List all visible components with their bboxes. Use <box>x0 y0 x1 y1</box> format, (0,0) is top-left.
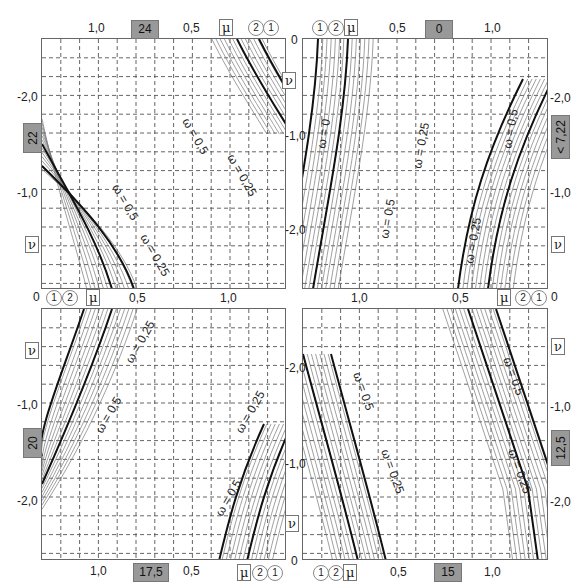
value-tag: 20 <box>23 428 42 458</box>
x-tick-label: 0,5 <box>389 22 406 34</box>
nu-axis-label: ν <box>25 342 39 359</box>
y-tick-label: -2,0 <box>17 495 38 507</box>
y-tick-label: -2,0 <box>285 224 306 236</box>
nu-axis-label: ν <box>25 236 39 253</box>
y-tick-label: -1,0 <box>550 401 571 413</box>
panel-plot-area: ω = 0,5ω = 0,5ω = 0,25ω = 0,25 <box>303 309 547 559</box>
panel-plot-area: ω = 0,25ω = 0,5ω = 0,25ω = 0,5 <box>42 309 285 559</box>
omega-label: ω = 0,25 <box>410 121 432 169</box>
value-tag: 15 <box>434 563 462 582</box>
y-tick-label: -1,0 <box>285 458 306 470</box>
x-tick-label: 1,0 <box>220 292 237 304</box>
value-tag: 17,5 <box>133 563 169 582</box>
panel-bottom-right: ω = 0,5ω = 0,5ω = 0,25ω = 0,25 <box>302 308 548 560</box>
x-tick-label: 0,5 <box>452 292 469 304</box>
panel-top-left: ω = 0,5ω = 0,25ω = 0,5ω = 0,25 <box>41 38 286 289</box>
curve-marker: 1 <box>263 20 279 36</box>
curve-marker: 2 <box>62 290 78 306</box>
omega-label: ω = 0,5 <box>109 182 141 224</box>
x-tick-label: 0,5 <box>183 565 200 577</box>
value-tag: 12,5 <box>551 430 570 466</box>
curve-marker: 2 <box>515 290 531 306</box>
curve-marker: 2 <box>328 565 344 581</box>
nu-axis-label: ν <box>551 338 565 355</box>
y-tick-label: -2,0 <box>550 92 571 104</box>
x-tick-label: 0,5 <box>183 22 200 34</box>
curve-marker: 1 <box>531 290 547 306</box>
y-tick-label: -2,0 <box>285 362 306 374</box>
mu-axis-label: μ <box>344 19 358 36</box>
panel-plot-area: ω = 0,5ω = 0,25ω = 0,5ω = 0,25 <box>42 39 285 288</box>
x-tick-label: 0,5 <box>129 292 146 304</box>
omega-label: ω = 0,5 <box>179 116 211 158</box>
mu-axis-label: μ <box>219 19 233 36</box>
nu-axis-label: ν <box>285 515 299 532</box>
y-tick-label: -2,0 <box>550 496 571 508</box>
origin-label: 0 <box>33 291 40 303</box>
x-tick-label: 1,0 <box>90 565 107 577</box>
value-tag: 0 <box>425 20 453 39</box>
omega-label: ω = 0,25 <box>378 447 407 496</box>
y-tick-label: -1,0 <box>17 187 38 199</box>
mu-axis-label: μ <box>343 564 357 581</box>
x-tick-label: 0,5 <box>390 566 407 578</box>
value-tag: < 7,22 <box>551 115 570 159</box>
value-tag: 22 <box>23 123 42 153</box>
x-tick-label: 1,0 <box>484 22 501 34</box>
x-tick-label: 1,0 <box>351 292 368 304</box>
y-tick-label: -1,0 <box>550 187 571 199</box>
nu-axis-label: ν <box>551 236 565 253</box>
curve-marker: 1 <box>313 565 329 581</box>
omega-label: ω = 0,5 <box>377 198 398 240</box>
y-tick-label: -1,0 <box>285 130 306 142</box>
curve-marker: 2 <box>252 565 268 581</box>
mu-axis-label: μ <box>86 289 100 306</box>
curve-marker: 2 <box>248 20 264 36</box>
origin-label: 0 <box>291 555 298 567</box>
panel-top-right: ω = 0ω = 0,25ω = 0,5ω = 0,5ω = 0,25ω = 0 <box>302 38 548 289</box>
omega-label: ω = 0,5 <box>500 355 527 397</box>
curve-marker: 2 <box>328 20 344 36</box>
curve-marker: 1 <box>312 20 328 36</box>
mu-axis-label: μ <box>497 289 511 306</box>
nu-axis-label: ν <box>282 72 296 89</box>
panel-plot-area: ω = 0ω = 0,25ω = 0,5ω = 0,5ω = 0,25ω = 0 <box>303 39 547 288</box>
y-tick-label: -1,0 <box>17 399 38 411</box>
y-tick-label: -2,0 <box>17 91 38 103</box>
x-tick-label: 1,0 <box>484 566 501 578</box>
mu-axis-label: μ <box>237 564 251 581</box>
panel-bottom-left: ω = 0,25ω = 0,5ω = 0,25ω = 0,5 <box>41 308 286 560</box>
value-tag: 24 <box>131 20 159 39</box>
origin-label: 0 <box>291 34 298 46</box>
omega-label: ω = 0,5 <box>350 370 377 412</box>
x-tick-label: 1,0 <box>88 22 105 34</box>
omega-label: ω = 0,5 <box>212 477 244 519</box>
omega-label: ω = 0 <box>314 118 333 150</box>
curve-marker: 1 <box>46 290 62 306</box>
omega-label: ω = 0 <box>544 233 547 265</box>
curve-marker: 1 <box>267 565 283 581</box>
omega-label: ω = 0,25 <box>462 216 484 264</box>
origin-label: 0 <box>551 291 558 303</box>
